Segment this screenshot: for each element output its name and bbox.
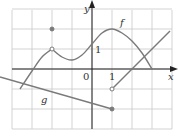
g-segment-1	[0, 77, 112, 109]
x-axis-label: x	[168, 71, 174, 82]
f-label: f	[119, 17, 126, 28]
g-label: g	[41, 94, 47, 105]
f-open-point	[50, 47, 54, 51]
g-open-point	[110, 87, 114, 91]
y-axis-arrow-icon	[89, 0, 95, 8]
g-segment-2	[112, 31, 170, 89]
y-axis-label: y	[83, 3, 90, 14]
f-filled-point	[50, 27, 54, 31]
labels: y x 0 1 1 f g	[41, 3, 174, 105]
y-tick-1-label: 1	[95, 44, 101, 55]
g-filled-point	[110, 107, 114, 111]
x-tick-1-label: 1	[109, 71, 115, 82]
origin-label: 0	[83, 71, 89, 82]
function-graph: y x 0 1 1 f g	[0, 0, 178, 136]
